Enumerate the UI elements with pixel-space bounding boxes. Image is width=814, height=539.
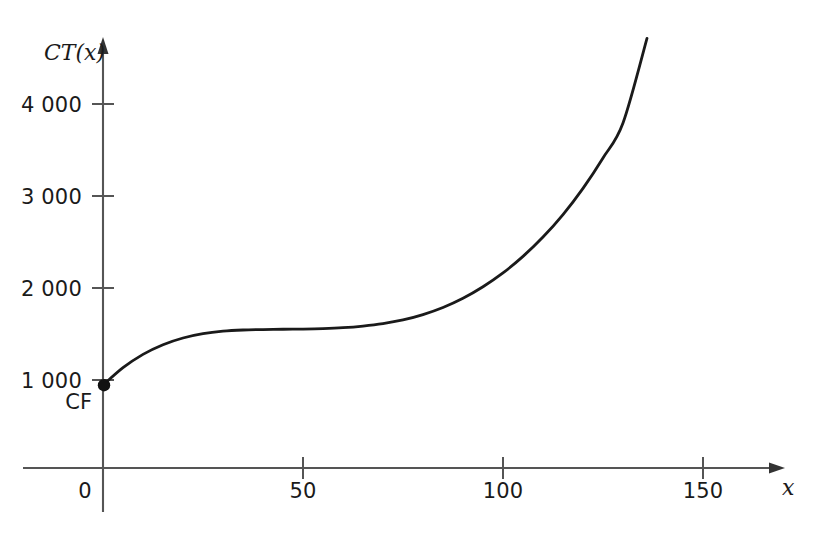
fixed-cost-point-marker [98, 379, 110, 391]
ct-curve [103, 38, 647, 385]
chart-figure: 1 000 2 000 3 000 4 000 50 100 150 0 CT(… [0, 0, 814, 539]
chart-plot-area [0, 0, 814, 539]
y-tick-label-3000: 3 000 [10, 185, 82, 209]
x-tick-label-50: 50 [263, 479, 343, 503]
y-axis-label: CT(x) [44, 40, 105, 65]
y-tick-label-4000: 4 000 [10, 93, 82, 117]
x-axis-arrowhead [769, 463, 785, 474]
x-tick-label-100: 100 [463, 479, 543, 503]
fixed-cost-label: CF [24, 390, 92, 414]
y-tick-label-2000: 2 000 [10, 277, 82, 301]
origin-label: 0 [50, 479, 120, 503]
x-axis-label: x [782, 475, 794, 500]
x-tick-label-150: 150 [663, 479, 743, 503]
